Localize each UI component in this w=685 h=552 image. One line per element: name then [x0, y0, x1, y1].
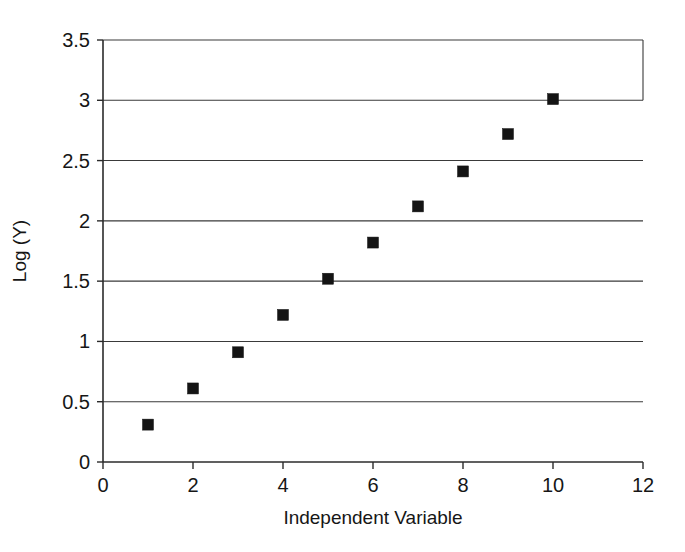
y-tick-label: 3.5 — [62, 29, 90, 51]
data-point-marker — [323, 273, 334, 284]
data-point-marker — [503, 129, 514, 140]
x-tick-label: 6 — [367, 474, 378, 496]
y-tick-labels: 00.511.522.533.5 — [62, 29, 90, 473]
data-point-marker — [458, 166, 469, 177]
x-axis-title: Independent Variable — [283, 507, 462, 528]
y-axis-title: Log (Y) — [9, 220, 30, 282]
y-tick-label: 0 — [79, 451, 90, 473]
data-point-marker — [233, 347, 244, 358]
x-tick-label: 8 — [457, 474, 468, 496]
data-point-marker — [413, 201, 424, 212]
y-tick-label: 1 — [79, 330, 90, 352]
data-point-marker — [278, 309, 289, 320]
plot-canvas: 00.511.522.533.5 024681012 Log (Y) Indep… — [0, 0, 685, 552]
y-tick-label: 0.5 — [62, 391, 90, 413]
axes — [103, 40, 643, 462]
x-tick-labels: 024681012 — [97, 474, 654, 496]
gridlines — [103, 40, 643, 402]
x-tick-label: 10 — [542, 474, 564, 496]
x-tick-label: 0 — [97, 474, 108, 496]
scatter-chart: 00.511.522.533.5 024681012 Log (Y) Indep… — [0, 0, 685, 552]
y-tick-label: 2.5 — [62, 150, 90, 172]
y-tick-label: 3 — [79, 89, 90, 111]
x-tick-label: 2 — [187, 474, 198, 496]
y-tick-label: 2 — [79, 210, 90, 232]
data-point-marker — [548, 94, 559, 105]
data-points — [143, 94, 559, 431]
y-tick-label: 1.5 — [62, 270, 90, 292]
data-point-marker — [143, 419, 154, 430]
x-tick-label: 12 — [632, 474, 654, 496]
x-tick-label: 4 — [277, 474, 288, 496]
tick-marks — [97, 40, 643, 469]
data-point-marker — [368, 237, 379, 248]
data-point-marker — [188, 383, 199, 394]
